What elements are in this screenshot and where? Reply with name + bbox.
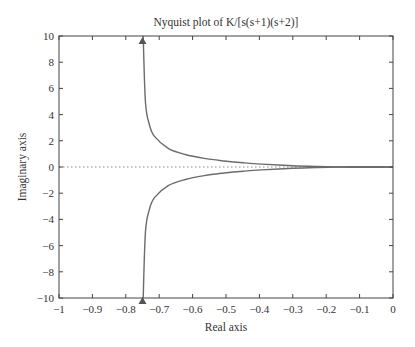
x-axis-label: Real axis	[205, 321, 248, 333]
x-tick-label: −0.1	[350, 303, 370, 315]
y-tick-label: 4	[49, 109, 55, 121]
x-tick-label: −0.6	[183, 303, 203, 315]
y-tick-label: 0	[49, 161, 55, 173]
y-tick-label: −10	[37, 292, 55, 304]
chart-title: Nyquist plot of K/[s(s+1)(s+2)]	[154, 16, 299, 29]
nyquist-chart: Nyquist plot of K/[s(s+1)(s+2)] −1−0.9−0…	[0, 0, 415, 347]
x-tick-label: −0.8	[116, 303, 136, 315]
x-tick-label: 0	[390, 303, 396, 315]
plot-area	[59, 36, 393, 304]
y-tick-label: −4	[42, 213, 54, 225]
x-axis-ticks: −1−0.9−0.8−0.7−0.6−0.5−0.4−0.3−0.2−0.10	[53, 36, 396, 315]
nyquist-curve-lower	[143, 167, 394, 298]
y-tick-label: 10	[43, 30, 55, 42]
y-tick-label: 6	[49, 82, 55, 94]
y-axis-label: Imaginary axis	[16, 132, 29, 201]
y-tick-label: −2	[42, 187, 54, 199]
x-tick-label: −1	[53, 303, 65, 315]
x-tick-label: −0.7	[149, 303, 169, 315]
x-tick-label: −0.4	[249, 303, 269, 315]
y-tick-label: 8	[49, 56, 55, 68]
x-tick-label: −0.2	[316, 303, 336, 315]
y-tick-label: −8	[42, 266, 54, 278]
y-tick-label: −6	[42, 240, 54, 252]
x-tick-label: −0.5	[216, 303, 236, 315]
arrow-up-icon-top	[139, 37, 147, 44]
nyquist-curve-upper	[143, 36, 394, 167]
y-tick-label: 2	[49, 135, 55, 147]
x-tick-label: −0.3	[283, 303, 303, 315]
x-tick-label: −0.9	[82, 303, 102, 315]
